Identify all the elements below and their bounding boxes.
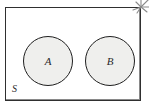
universal-set-rectangle: A B: [5, 7, 141, 101]
set-circle-a: A: [23, 36, 73, 86]
set-circle-b: B: [85, 36, 135, 86]
diagram-canvas: A B S: [0, 0, 149, 108]
set-label-a: A: [45, 56, 52, 67]
universal-set-label: S: [12, 84, 17, 94]
set-label-b: B: [107, 56, 114, 67]
